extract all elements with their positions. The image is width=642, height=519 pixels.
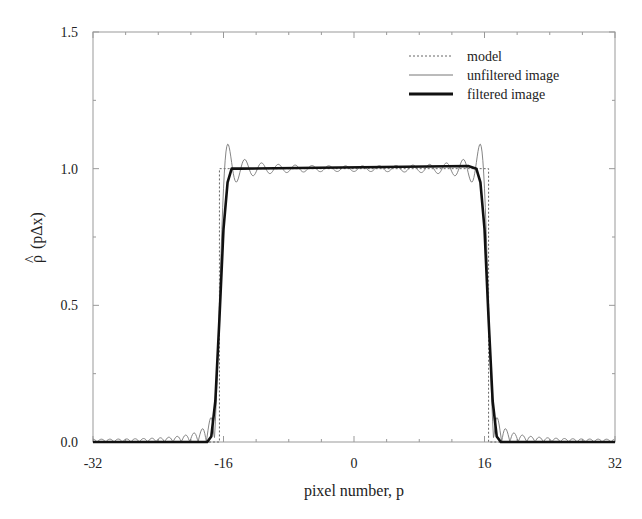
y-tick-label: 0.0 — [61, 435, 79, 450]
legend-label-model: model — [467, 49, 502, 64]
series-model — [93, 169, 615, 442]
y-axis-title-rest: (pΔx) — [28, 212, 46, 249]
y-tick-label: 1.0 — [61, 162, 79, 177]
x-tick-label: -16 — [214, 456, 233, 471]
chart: -32-16016320.00.51.01.5 model unfiltered… — [0, 0, 642, 519]
x-tick-label: -32 — [84, 456, 103, 471]
series-unfiltered-image — [93, 144, 614, 442]
y-tick-label: 0.5 — [61, 298, 79, 313]
y-tick-label: 1.5 — [61, 25, 79, 40]
series-filtered-image — [93, 166, 615, 442]
x-axis-title: pixel number, p — [304, 482, 404, 500]
legend-label-filtered: filtered image — [467, 87, 545, 102]
legend: model unfiltered image filtered image — [409, 49, 559, 102]
y-axis-title: ρ ^ (pΔx) — [22, 212, 46, 263]
x-tick-label: 0 — [351, 456, 358, 471]
legend-label-unfiltered: unfiltered image — [467, 68, 559, 83]
y-axis-title-hat: ^ — [22, 255, 39, 263]
x-tick-label: 32 — [608, 456, 622, 471]
x-tick-label: 16 — [478, 456, 492, 471]
